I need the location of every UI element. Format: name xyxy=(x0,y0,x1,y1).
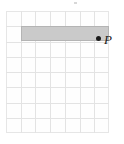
point-p-dot-icon xyxy=(96,36,101,41)
gridline-horizontal xyxy=(6,72,109,73)
top-speck xyxy=(74,2,77,4)
gridline-horizontal xyxy=(6,42,109,43)
gridline-horizontal xyxy=(6,87,109,88)
coordinate-grid xyxy=(6,11,109,133)
point-p-label: P xyxy=(104,33,112,46)
gridline-horizontal xyxy=(6,103,109,104)
figure-container: P xyxy=(0,0,124,144)
gridline-horizontal xyxy=(6,57,109,58)
gridline-horizontal xyxy=(6,118,109,119)
